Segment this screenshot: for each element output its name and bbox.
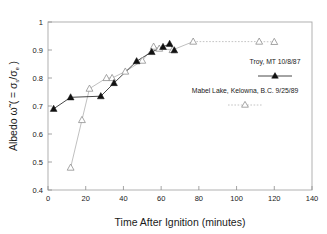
albedo-vs-time-chart: 020406080100120140 0.40.50.60.70.80.91 T… [0, 0, 327, 234]
legend-label-troy: Troy, MT 10/8/87 [250, 58, 301, 66]
y-tick-label: 0.8 [33, 74, 43, 83]
y-tick-label: 1 [39, 18, 43, 27]
x-tick-label: 60 [157, 194, 165, 203]
x-tick-label: 0 [46, 194, 50, 203]
x-tick-label: 140 [306, 194, 319, 203]
y-axis-title-main: Albedo ω̃ ( = σ [7, 82, 19, 151]
legend-label-mabel-lake: Mabel Lake, Kelowna, B.C. 9/25/89 [192, 87, 299, 94]
x-tick-label: 20 [82, 194, 90, 203]
y-tick-label: 0.9 [33, 46, 43, 55]
x-tick-label: 120 [268, 194, 281, 203]
y-axis-title: Albedo ω̃ ( = σs/σe ) [7, 61, 20, 151]
x-tick-label: 40 [119, 194, 127, 203]
y-tick-label: 0.5 [33, 158, 43, 167]
y-tick-label: 0.7 [33, 102, 43, 111]
y-tick-label: 0.4 [33, 186, 43, 195]
x-tick-label: 100 [230, 194, 243, 203]
x-axis-title: Time After Ignition (minutes) [115, 216, 246, 228]
x-tick-label: 80 [195, 194, 203, 203]
y-tick-label: 0.6 [33, 130, 43, 139]
y-axis-title-end: ) [7, 61, 19, 67]
